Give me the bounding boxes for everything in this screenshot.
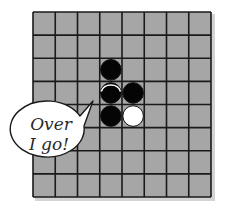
- board-cell-r0-c7[interactable]: [189, 12, 211, 35]
- board-cell-r0-c3[interactable]: [100, 12, 122, 35]
- board-cell-r7-c3[interactable]: [100, 174, 122, 197]
- black-disc[interactable]: [123, 83, 144, 104]
- board-cell-r2-c0[interactable]: [33, 58, 55, 81]
- board-cell-r7-c4[interactable]: [122, 174, 144, 197]
- board-cell-r3-c1[interactable]: [55, 81, 77, 104]
- board-cell-r4-c5[interactable]: [144, 105, 166, 128]
- board-cell-r1-c2[interactable]: [78, 35, 100, 58]
- board-cell-r1-c1[interactable]: [55, 35, 77, 58]
- board-cell-r2-c1[interactable]: [55, 58, 77, 81]
- speech-line-1: Over: [30, 114, 73, 134]
- board-cell-r2-c2[interactable]: [78, 58, 100, 81]
- white-disc[interactable]: [123, 106, 144, 127]
- board-cell-r6-c7[interactable]: [189, 151, 211, 174]
- board-cell-r3-c2[interactable]: [78, 81, 100, 104]
- board-cell-r7-c6[interactable]: [167, 174, 189, 197]
- black-disc[interactable]: [101, 60, 122, 81]
- board-cell-r6-c4[interactable]: [122, 151, 144, 174]
- board-cell-r7-c1[interactable]: [55, 174, 77, 197]
- board-cell-r5-c6[interactable]: [167, 128, 189, 151]
- board-cell-r1-c7[interactable]: [189, 35, 211, 58]
- board-cell-r1-c0[interactable]: [33, 35, 55, 58]
- board-cell-r1-c4[interactable]: [122, 35, 144, 58]
- othello-illustration: Over I go!: [0, 0, 226, 208]
- board-cell-r0-c5[interactable]: [144, 12, 166, 35]
- board-cell-r3-c6[interactable]: [167, 81, 189, 104]
- board-cell-r5-c7[interactable]: [189, 128, 211, 151]
- board-cell-r0-c0[interactable]: [33, 12, 55, 35]
- board-cell-r2-c4[interactable]: [122, 58, 144, 81]
- board-cell-r3-c7[interactable]: [189, 81, 211, 104]
- board-cell-r1-c5[interactable]: [144, 35, 166, 58]
- board-cell-r6-c5[interactable]: [144, 151, 166, 174]
- board-cell-r7-c7[interactable]: [189, 174, 211, 197]
- board-cell-r1-c6[interactable]: [167, 35, 189, 58]
- board-cell-r4-c6[interactable]: [167, 105, 189, 128]
- board-cell-r5-c5[interactable]: [144, 128, 166, 151]
- board-cell-r6-c3[interactable]: [100, 151, 122, 174]
- speech-line-2: I go!: [28, 134, 69, 154]
- board-cell-r1-c3[interactable]: [100, 35, 122, 58]
- board-cell-r4-c7[interactable]: [189, 105, 211, 128]
- board-cell-r0-c2[interactable]: [78, 12, 100, 35]
- board-cell-r7-c5[interactable]: [144, 174, 166, 197]
- board-cell-r5-c4[interactable]: [122, 128, 144, 151]
- black-disc[interactable]: [101, 83, 122, 104]
- board-cell-r5-c3[interactable]: [100, 128, 122, 151]
- board-cell-r2-c5[interactable]: [144, 58, 166, 81]
- board-cell-r2-c7[interactable]: [189, 58, 211, 81]
- black-disc[interactable]: [101, 106, 122, 127]
- board-cell-r6-c6[interactable]: [167, 151, 189, 174]
- board-cell-r7-c0[interactable]: [33, 174, 55, 197]
- board-cell-r6-c2[interactable]: [78, 151, 100, 174]
- board-cell-r0-c1[interactable]: [55, 12, 77, 35]
- board-cell-r3-c5[interactable]: [144, 81, 166, 104]
- board-cell-r7-c2[interactable]: [78, 174, 100, 197]
- board-cell-r2-c6[interactable]: [167, 58, 189, 81]
- board-cell-r0-c6[interactable]: [167, 12, 189, 35]
- board-cell-r0-c4[interactable]: [122, 12, 144, 35]
